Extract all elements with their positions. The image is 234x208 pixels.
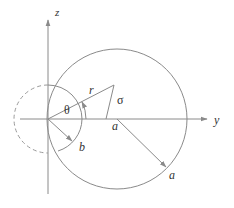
z-axis-label: z (54, 6, 60, 18)
r-line (48, 85, 114, 119)
a-radius-label: a (169, 168, 175, 182)
r-label: r (89, 83, 94, 97)
diagram-figure: z y r σ θ a (0, 0, 234, 208)
b-radius-arrow (48, 119, 72, 141)
sigma-label: σ (117, 93, 124, 107)
b-radius-label: b (79, 140, 85, 154)
y-axis-label: y (213, 113, 220, 127)
a-radius-arrow (117, 119, 166, 167)
theta-arc (82, 102, 86, 119)
theta-label: θ (64, 103, 70, 117)
a-center-label: a (112, 119, 118, 133)
sigma-line (106, 85, 114, 119)
